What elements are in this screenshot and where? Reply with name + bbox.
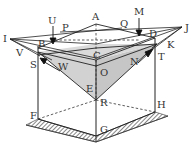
label-n: N: [130, 56, 139, 67]
label-m: M: [134, 6, 144, 17]
label-c: C: [93, 50, 101, 61]
label-u: U: [48, 15, 56, 26]
label-t: T: [158, 51, 165, 62]
label-k: K: [167, 39, 175, 50]
geometry-diagram: A B C D E F G H I J K M N O P Q R S T U …: [0, 0, 196, 152]
label-f: F: [30, 110, 37, 121]
label-a: A: [91, 11, 100, 22]
label-j: J: [184, 22, 189, 33]
label-i: I: [3, 33, 7, 44]
base-slab: [26, 112, 168, 142]
label-g: G: [100, 124, 108, 135]
label-b: B: [38, 38, 45, 49]
label-v: V: [15, 47, 24, 58]
label-o: O: [100, 67, 108, 78]
label-h: H: [157, 99, 166, 110]
label-r: R: [100, 97, 108, 108]
label-d: D: [149, 28, 157, 39]
label-w: W: [58, 61, 69, 72]
label-e: E: [86, 83, 93, 94]
label-p: P: [62, 22, 69, 33]
label-q: Q: [120, 18, 128, 29]
label-s: S: [30, 59, 37, 70]
